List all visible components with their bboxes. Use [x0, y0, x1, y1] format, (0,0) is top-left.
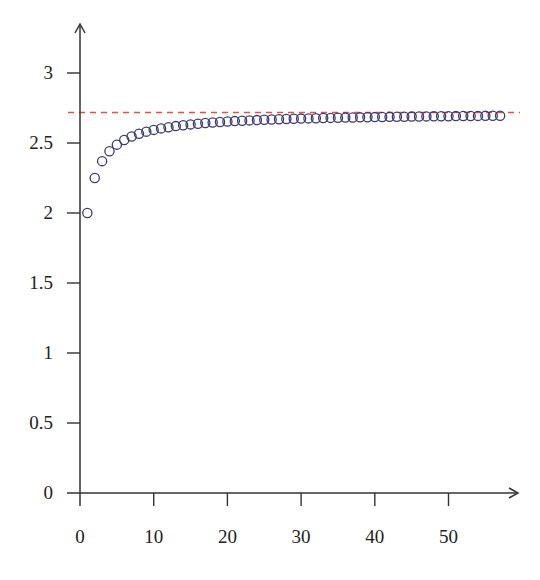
axes: [67, 24, 518, 506]
x-tick-label: 0: [75, 526, 85, 547]
y-tick-label: 2: [44, 202, 54, 223]
x-tick-label: 20: [218, 526, 237, 547]
y-tick-label: 1.5: [29, 272, 53, 293]
x-tick-label: 10: [144, 526, 163, 547]
data-point: [90, 173, 99, 182]
y-tick-label: 1: [44, 342, 54, 363]
data-points: [83, 111, 505, 217]
x-axis-ticks: 01020304050: [75, 493, 458, 547]
data-point: [98, 157, 107, 166]
data-point: [83, 208, 92, 217]
y-axis-ticks: 00.511.522.53: [29, 62, 80, 503]
chart-canvas: 00.511.522.53 01020304050: [0, 0, 540, 580]
y-tick-label: 3: [44, 62, 54, 83]
data-point: [105, 147, 114, 156]
x-tick-label: 50: [439, 526, 458, 547]
x-tick-label: 30: [292, 526, 311, 547]
y-tick-label: 0.5: [29, 412, 53, 433]
y-tick-label: 2.5: [29, 132, 53, 153]
y-tick-label: 0: [44, 482, 54, 503]
x-tick-label: 40: [365, 526, 384, 547]
